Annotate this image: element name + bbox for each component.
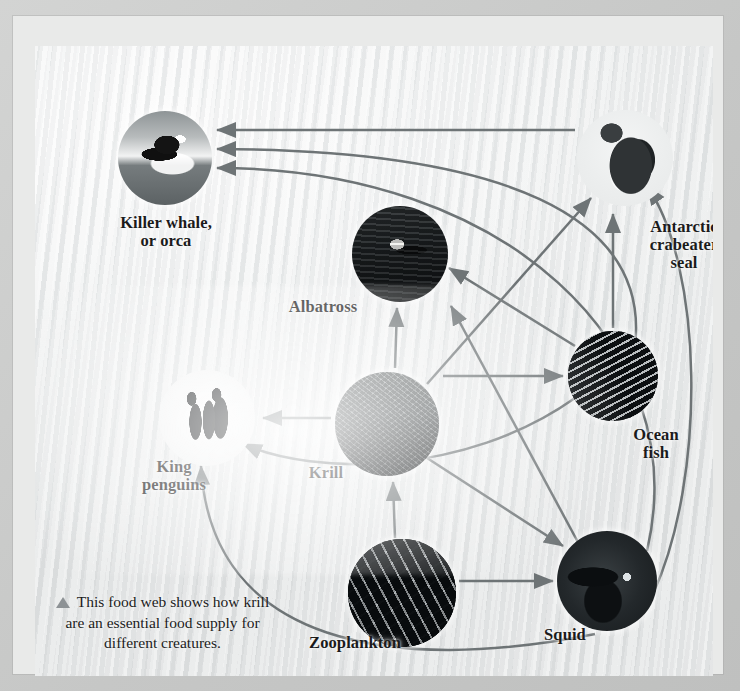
albatross-photo — [352, 206, 448, 302]
krill-photo — [335, 372, 439, 476]
photo-canvas: Killer whale, or orca Albatross Antarcti… — [35, 46, 713, 676]
penguins-label: King penguins — [109, 458, 239, 494]
squid-label: Squid — [515, 626, 615, 644]
orca-photo — [118, 111, 212, 205]
triangle-bullet-icon — [56, 597, 70, 608]
edge-oceanfish-penguins — [243, 398, 575, 464]
edge-krill-squid — [427, 458, 563, 546]
seal-label: Antarctic crabeater seal — [619, 218, 713, 271]
penguins-photo — [159, 370, 255, 466]
caption-text: This food web shows how krill are an ess… — [65, 593, 269, 651]
edge-zooplankton-krill — [393, 482, 395, 538]
printed-page: Killer whale, or orca Albatross Antarcti… — [13, 16, 723, 674]
orca-label: Killer whale, or orca — [71, 214, 261, 250]
squid-photo — [557, 531, 657, 631]
albatross-label: Albatross — [253, 298, 393, 316]
edge-krill-seal — [427, 198, 591, 384]
edge-krill-albatross — [395, 308, 397, 368]
krill-label: Krill — [281, 464, 371, 482]
figure-root: Killer whale, or orca Albatross Antarcti… — [0, 0, 740, 691]
food-web-photo: Killer whale, or orca Albatross Antarcti… — [35, 46, 713, 676]
seal-photo — [577, 110, 673, 206]
oceanfish-photo — [568, 331, 658, 421]
zooplankton-label: Zooplankton — [265, 634, 445, 652]
oceanfish-label: Ocean fish — [611, 426, 701, 462]
zooplankton-photo — [348, 539, 456, 647]
edge-squid-albatross — [451, 306, 580, 546]
figure-caption: This food web shows how krill are an ess… — [55, 592, 270, 654]
